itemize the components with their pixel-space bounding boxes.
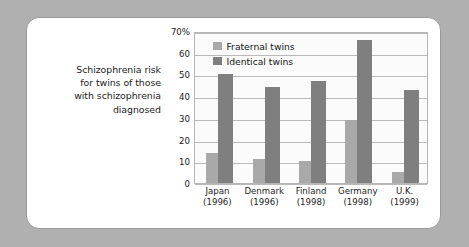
caption-line-3: with schizophrenia	[39, 89, 161, 102]
plot-area: Fraternal twins Identical twins	[194, 32, 428, 184]
chart-caption: Schizophrenia risk for twins of those wi…	[39, 63, 161, 116]
x-axis-category-label: U.K.(1999)	[381, 186, 428, 209]
figure-card: Schizophrenia risk for twins of those wi…	[26, 17, 441, 229]
x-axis-category-name: Germany	[338, 186, 378, 196]
x-axis-category-label: Germany(1998)	[334, 186, 381, 209]
legend-item-identical: Identical twins	[213, 54, 295, 68]
x-axis-category-name: U.K.	[396, 186, 413, 196]
bar-identical	[357, 40, 372, 183]
y-axis-tick-label: 60	[164, 49, 190, 59]
x-axis: Japan(1996)Denmark(1996)Finland(1998)Ger…	[194, 186, 428, 209]
x-axis-category-year: (1998)	[288, 197, 335, 208]
legend-label-fraternal: Fraternal twins	[227, 41, 295, 52]
x-axis-category-year: (1999)	[381, 197, 428, 208]
x-axis-category-year: (1998)	[334, 197, 381, 208]
y-axis-tick-label: 0	[164, 179, 190, 189]
gridline	[195, 184, 427, 185]
y-axis-tick-label: 10	[164, 157, 190, 167]
bar-identical	[311, 81, 326, 183]
x-axis-category-name: Finland	[296, 186, 327, 196]
figure-background: Schizophrenia risk for twins of those wi…	[0, 0, 469, 247]
legend-swatch-identical-icon	[213, 57, 222, 66]
bar-group	[288, 33, 334, 183]
bar-chart: 010203040506070% Fraternal twins Identic…	[164, 32, 430, 218]
y-axis-tick-label: 40	[164, 92, 190, 102]
x-axis-category-label: Finland(1998)	[288, 186, 335, 209]
x-axis-category-label: Denmark(1996)	[241, 186, 288, 209]
y-axis-tick-label: 20	[164, 136, 190, 146]
y-axis-tick-label: 70%	[164, 27, 190, 37]
legend-label-identical: Identical twins	[227, 56, 294, 67]
x-axis-category-name: Denmark	[244, 186, 284, 196]
y-axis: 010203040506070%	[164, 32, 190, 184]
x-axis-category-year: (1996)	[241, 197, 288, 208]
caption-line-2: for twins of those	[39, 76, 161, 89]
bar-group	[381, 33, 427, 183]
chart-legend: Fraternal twins Identical twins	[213, 39, 295, 69]
bar-group	[334, 33, 380, 183]
x-axis-category-year: (1996)	[194, 197, 241, 208]
caption-line-4: diagnosed	[39, 103, 161, 116]
bar-identical	[265, 87, 280, 183]
x-axis-category-name: Japan	[205, 186, 229, 196]
bar-identical	[218, 74, 233, 183]
y-axis-tick-label: 30	[164, 114, 190, 124]
y-axis-tick-label: 50	[164, 70, 190, 80]
bar-identical	[404, 90, 419, 183]
caption-line-1: Schizophrenia risk	[39, 63, 161, 76]
x-axis-category-label: Japan(1996)	[194, 186, 241, 209]
legend-swatch-fraternal-icon	[213, 42, 222, 51]
legend-item-fraternal: Fraternal twins	[213, 39, 295, 53]
